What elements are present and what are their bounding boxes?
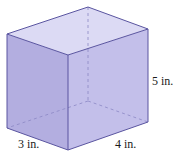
width-label: 4 in.	[115, 138, 136, 150]
depth-label: 3 in.	[18, 138, 39, 150]
height-label: 5 in.	[152, 75, 173, 87]
prism-diagram: 5 in. 3 in. 4 in.	[0, 0, 176, 157]
prism-drawing	[0, 0, 176, 157]
